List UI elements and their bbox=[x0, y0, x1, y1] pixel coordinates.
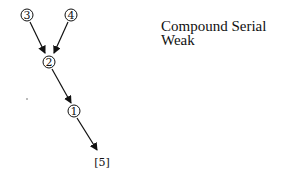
node-4-label: 4 bbox=[68, 9, 75, 22]
node-2: 2 bbox=[43, 56, 55, 69]
node-4: 4 bbox=[65, 9, 77, 22]
node-5-label: [5] bbox=[94, 156, 110, 169]
diagram-title: Compound Serial Weak bbox=[161, 19, 266, 47]
artifact-dot bbox=[26, 98, 28, 100]
title-line-2: Weak bbox=[161, 33, 266, 47]
edge-1-to-5 bbox=[77, 118, 97, 150]
edge-2-to-1 bbox=[52, 69, 71, 103]
node-5: [5] bbox=[94, 156, 110, 169]
node-2-label: 2 bbox=[46, 56, 53, 69]
title-line-1: Compound Serial bbox=[161, 19, 266, 33]
node-1: 1 bbox=[68, 105, 80, 118]
edge-3-to-2 bbox=[30, 22, 45, 53]
node-3: 3 bbox=[21, 9, 33, 22]
node-3-label: 3 bbox=[24, 9, 31, 22]
node-1-label: 1 bbox=[71, 105, 78, 118]
edge-4-to-2 bbox=[54, 22, 68, 53]
